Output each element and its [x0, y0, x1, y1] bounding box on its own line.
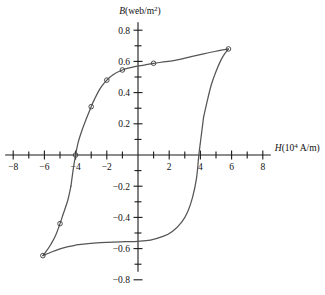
x-axis-tick-label: 8	[260, 162, 265, 172]
x-axis-title: H(104 A/m)	[274, 142, 320, 155]
curve-upper-branch-tail	[43, 186, 71, 255]
y-axis-tick-label: 0.4	[118, 88, 130, 98]
curve-upper-branch	[71, 49, 229, 186]
y-axis-tick-label: −0.2	[113, 182, 130, 192]
x-axis-tick-label: −2	[102, 162, 112, 172]
x-axis-tick-label: 2	[167, 162, 172, 172]
hysteresis-chart: −8−6−4−224680.80.60.40.2−0.2−0.4−0.6−0.8…	[0, 0, 325, 295]
y-axis-tick-label: −0.6	[113, 244, 130, 254]
y-axis-tick-label: 0.8	[118, 26, 130, 36]
x-axis-tick-label: −6	[39, 162, 49, 172]
y-axis-tick-label: −0.8	[113, 275, 130, 285]
x-axis-tick-label: −8	[8, 162, 18, 172]
x-axis-tick-label: 4	[198, 162, 203, 172]
y-axis-tick-label: 0.2	[118, 119, 130, 129]
y-axis-tick-label: −0.4	[113, 213, 130, 223]
chart-canvas: −8−6−4−224680.80.60.40.2−0.2−0.4−0.6−0.8…	[0, 0, 325, 295]
x-axis-tick-label: −4	[71, 162, 81, 172]
y-axis-tick-label: 0.6	[118, 57, 130, 67]
curve-lower-branch-tail	[204, 49, 229, 118]
x-axis-tick-label: 6	[229, 162, 234, 172]
y-axis-title: B(web/m2)	[119, 5, 161, 17]
